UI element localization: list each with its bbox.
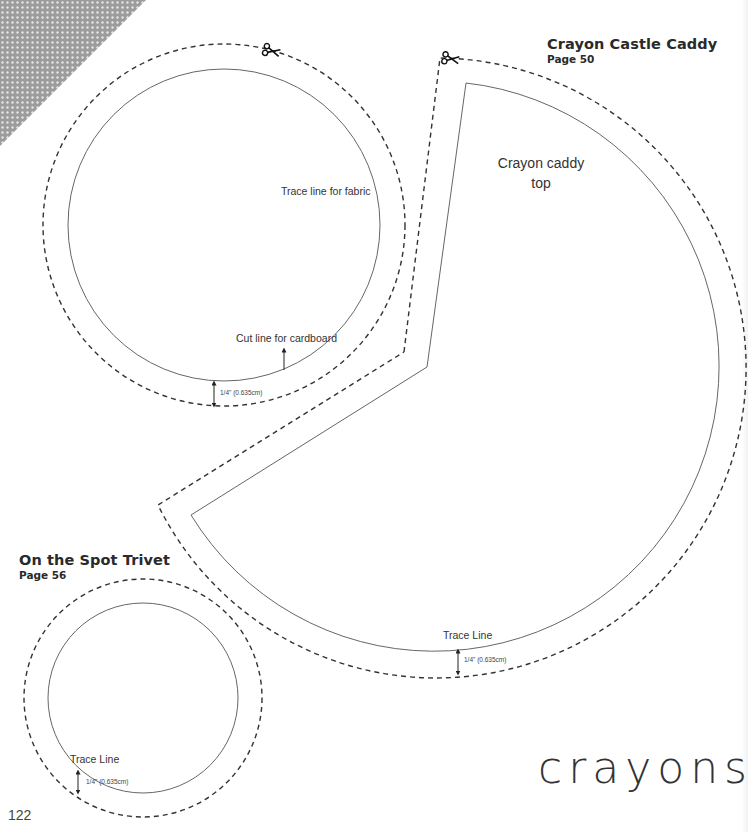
- cut-line-dashed: [158, 58, 746, 678]
- caddy-top-label-line1: Crayon caddy: [486, 153, 596, 173]
- caddy-top-label: Crayon caddy top: [486, 153, 596, 193]
- trivet-title: On the Spot Trivet: [19, 552, 170, 568]
- pattern-page: Crayon Castle Caddy Page 50 On the Spot …: [0, 0, 748, 832]
- brand-wordmark: crayons: [538, 742, 748, 793]
- caddy-page-ref: Page 50: [547, 53, 594, 65]
- trace-fabric-label: Trace line for fabric: [281, 185, 370, 197]
- scissors-icon: [441, 51, 459, 66]
- trivet-page-ref: Page 56: [19, 569, 66, 581]
- dot-pattern-corner: [0, 0, 146, 146]
- cut-line-dashed: [43, 44, 405, 406]
- trivet-trace-line-label: Trace Line: [70, 753, 119, 765]
- scissors-icon: [262, 43, 281, 59]
- caddy-title: Crayon Castle Caddy: [547, 36, 717, 52]
- cut-line-dashed: [24, 579, 262, 817]
- caddy-top-label-line2: top: [486, 173, 596, 193]
- circle-template-caddy-base: [43, 44, 405, 406]
- page-number: 122: [8, 807, 31, 823]
- circle-template-trivet: [24, 579, 262, 817]
- seam-allowance-label: 1/4" (0.635cm): [86, 778, 128, 785]
- caddy-trace-line-label: Trace Line: [443, 629, 492, 641]
- seam-allowance-label: 1/4" (0.635cm): [220, 389, 262, 396]
- sector-template-caddy-top: [158, 58, 746, 678]
- pattern-artwork: [0, 0, 748, 832]
- trace-line-solid: [191, 83, 719, 651]
- seam-allowance-label: 1/4" (0.635cm): [464, 656, 506, 663]
- cut-cardboard-label: Cut line for cardboard: [236, 332, 337, 344]
